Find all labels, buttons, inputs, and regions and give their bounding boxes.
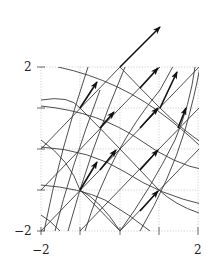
tangent-vectors: [80, 27, 186, 211]
y-max-label: 2: [24, 60, 32, 74]
vector-arrow: [140, 150, 158, 170]
vector-arrow: [140, 108, 158, 128]
coordinate-grid-diagram: 2 −2 −2 2: [0, 0, 212, 269]
vector-arrow: [140, 68, 158, 88]
vector-arrow: [140, 191, 158, 211]
x-max-label: 2: [194, 243, 202, 257]
y-min-label: −2: [14, 224, 32, 238]
curve-family: [41, 25, 208, 231]
x-min-label: −2: [32, 243, 50, 257]
vector-arrow: [120, 27, 160, 67]
vector-arrow: [160, 72, 177, 108]
